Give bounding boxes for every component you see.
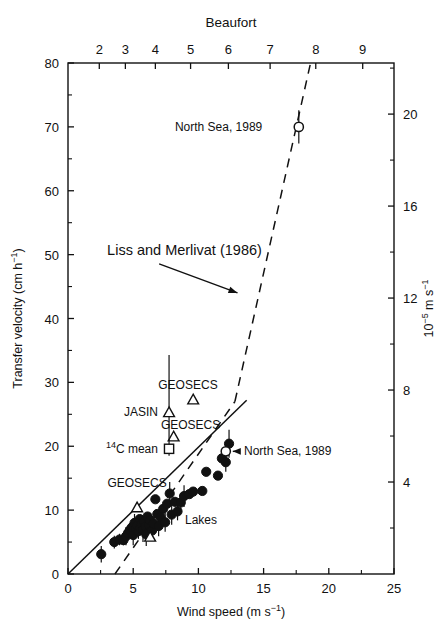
annotation-geosecs-mid: GEOSECS (161, 418, 220, 432)
data-point-filled-circle (202, 467, 211, 476)
beaufort-tick-label-6: 6 (225, 42, 232, 57)
y-tick-label-60: 60 (45, 184, 59, 199)
y-tick-label-30: 30 (45, 375, 59, 390)
beaufort-tick-label-7: 7 (267, 42, 274, 57)
beaufort-tick-label-4: 4 (152, 42, 159, 57)
y-tick-label-0: 0 (52, 567, 59, 582)
annotation-arrow-head (228, 287, 238, 293)
x-tick-label-20: 20 (322, 581, 336, 596)
data-point-open-triangle (164, 407, 175, 417)
data-point-open-triangle (188, 394, 199, 404)
data-point-open-circle (294, 122, 303, 131)
x-tick-label-10: 10 (191, 581, 205, 596)
beaufort-tick-label-2: 2 (96, 42, 103, 57)
y-axis-title: Transfer velocity (cm h−1) (9, 248, 25, 388)
right-tick-label-20: 20 (403, 107, 417, 122)
beaufort-tick-label-9: 9 (359, 42, 366, 57)
y-tick-label-70: 70 (45, 120, 59, 135)
beaufort-axis-title: Beaufort (205, 15, 256, 30)
data-point-open-square (164, 444, 173, 453)
beaufort-tick-label-5: 5 (187, 42, 194, 57)
annotation-north-sea-top: North Sea, 1989 (175, 120, 263, 134)
north-sea-pointer-head (233, 448, 241, 455)
x-tick-label-5: 5 (130, 581, 137, 596)
annotation-north-sea-mid: North Sea, 1989 (244, 444, 332, 458)
data-point-filled-circle (213, 471, 222, 480)
y-tick-label-10: 10 (45, 503, 59, 518)
right-tick-label-4: 4 (403, 475, 410, 490)
figure-container: 0510152025Wind speed (m s−1)010203040506… (0, 0, 448, 628)
annotation-geosecs-upper: GEOSECS (158, 378, 217, 392)
x-tick-label-15: 15 (256, 581, 270, 596)
data-point-filled-circle (189, 487, 198, 496)
y-tick-label-80: 80 (45, 56, 59, 71)
data-point-filled-circle (151, 495, 160, 504)
y-tick-label-40: 40 (45, 312, 59, 327)
data-point-open-circle (221, 447, 230, 456)
beaufort-tick-label-8: 8 (312, 42, 319, 57)
data-point-filled-circle (97, 550, 106, 559)
data-point-filled-circle (221, 458, 230, 467)
right-tick-label-8: 8 (403, 383, 410, 398)
plot-frame (68, 63, 394, 574)
annotation-lakes: Lakes (185, 513, 217, 527)
data-point-filled-circle (161, 518, 170, 527)
right-tick-label-16: 16 (403, 199, 417, 214)
annotation-geosecs-lower: GEOSECS (107, 476, 166, 490)
y-tick-label-50: 50 (45, 248, 59, 263)
annotation-c14-mean: 14C mean (106, 440, 158, 456)
x-tick-label-0: 0 (64, 581, 71, 596)
right-axis-title: 10−5 m s−1 (420, 279, 436, 337)
annotation-arrow-line (159, 264, 237, 293)
data-point-filled-circle (198, 486, 207, 495)
y-tick-label-20: 20 (45, 439, 59, 454)
annotation-liss-merlivat: Liss and Merlivat (1986) (107, 242, 262, 258)
right-tick-label-12: 12 (403, 291, 417, 306)
data-point-open-triangle (168, 431, 179, 441)
scatter-chart: 0510152025Wind speed (m s−1)010203040506… (0, 0, 448, 628)
annotation-jasin: JASIN (124, 405, 158, 419)
beaufort-tick-label-3: 3 (122, 42, 129, 57)
x-tick-label-25: 25 (387, 581, 401, 596)
x-axis-title: Wind speed (m s−1) (177, 603, 285, 619)
